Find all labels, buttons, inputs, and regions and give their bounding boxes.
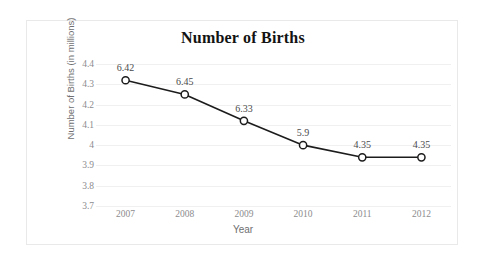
y-axis-tick-label: 3.9 xyxy=(82,160,94,170)
x-axis-title: Year xyxy=(27,224,459,235)
data-point-marker xyxy=(122,77,129,84)
data-point-marker xyxy=(299,142,306,149)
chart-card: Number of Births Number of Births (in mi… xyxy=(26,20,458,245)
y-axis-tick-label: 4.1 xyxy=(82,120,94,130)
data-point-marker xyxy=(359,154,366,161)
y-axis-tick-label: 4 xyxy=(89,140,94,150)
plot-area: 6.426.456.335.94.354.35 xyxy=(96,64,451,206)
x-axis-tick-label: 2008 xyxy=(175,209,194,219)
y-axis-tick-label: 4.4 xyxy=(82,59,94,69)
x-axis-tick-label: 2011 xyxy=(353,209,372,219)
x-axis-tick-label: 2010 xyxy=(294,209,313,219)
x-axis-tick-label: 2007 xyxy=(116,209,135,219)
line-series xyxy=(96,64,451,206)
x-axis-tick-label: 2009 xyxy=(234,209,253,219)
data-point-marker xyxy=(418,154,425,161)
data-point-label: 6.33 xyxy=(235,103,253,114)
y-axis-tick-label: 4.3 xyxy=(82,79,94,89)
y-axis-tick-labels: 4.44.34.24.143.93.83.7 xyxy=(70,64,94,206)
data-point-label: 6.45 xyxy=(176,76,194,87)
data-point-label: 4.35 xyxy=(354,139,372,150)
x-axis-tick-label: 2012 xyxy=(412,209,431,219)
gridline xyxy=(96,206,451,207)
x-axis-tick-labels: 200720082009201020112012 xyxy=(96,209,451,223)
y-axis-tick-label: 4.2 xyxy=(82,100,94,110)
data-point-marker xyxy=(240,117,247,124)
data-point-marker xyxy=(181,91,188,98)
series-markers xyxy=(122,77,425,161)
y-axis-tick-label: 3.7 xyxy=(82,201,94,211)
chart-title: Number of Births xyxy=(27,29,459,47)
data-point-label: 6.42 xyxy=(117,62,135,73)
data-point-label: 4.35 xyxy=(413,139,431,150)
data-point-label: 5.9 xyxy=(297,127,310,138)
y-axis-tick-label: 3.8 xyxy=(82,181,94,191)
series-polyline xyxy=(126,80,422,157)
